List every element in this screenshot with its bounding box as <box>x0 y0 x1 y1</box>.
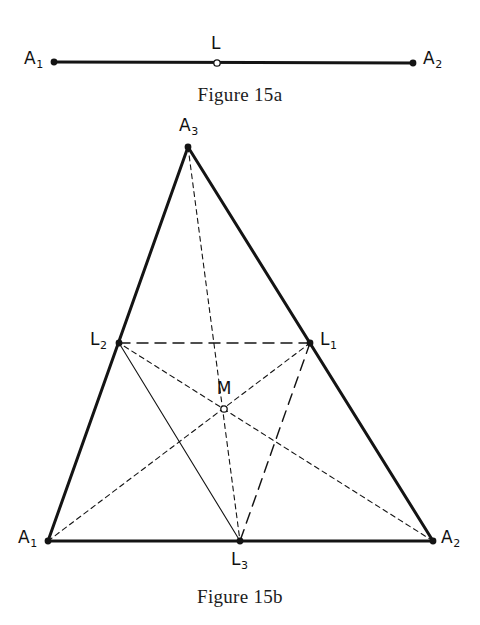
point-marker-A1-fig-a <box>51 59 58 66</box>
point-label-L1: L1 <box>320 331 336 348</box>
figure-caption-a: Figure 15a <box>0 84 480 106</box>
point-marker-A1 <box>45 538 52 545</box>
point-marker-L3 <box>237 538 244 545</box>
segment-median-A2-L2 <box>119 343 433 541</box>
point-marker-A2-fig-a <box>410 60 417 67</box>
point-marker-A2 <box>430 538 437 545</box>
point-label-M: M <box>217 380 232 397</box>
point-label-A2: A2 <box>441 529 460 546</box>
point-label-L-fig-a: L <box>211 35 220 52</box>
point-marker-A3 <box>185 144 192 151</box>
point-marker-L2 <box>116 340 123 347</box>
segments-layer <box>48 62 433 541</box>
segment-A1-A2 <box>54 62 413 63</box>
point-marker-L-fig-a <box>214 60 220 66</box>
point-marker-M <box>221 406 227 412</box>
point-marker-L1 <box>307 340 314 347</box>
point-label-A3: A3 <box>179 117 198 134</box>
segment-midline-L1-L3 <box>240 343 310 541</box>
point-label-A1-fig-a: A1 <box>24 50 43 67</box>
segment-median-A3-L3 <box>188 147 240 541</box>
figure-root: A1 L A2 A3 L2 L1 M A1 L3 A2 Figure 15a F… <box>0 0 480 625</box>
point-label-L3: L3 <box>231 551 247 568</box>
segment-median-A1-L1 <box>48 343 310 541</box>
point-label-A2-fig-a: A2 <box>423 50 442 67</box>
point-label-L2: L2 <box>90 331 106 348</box>
figure-caption-b: Figure 15b <box>0 586 480 608</box>
markers-layer <box>45 59 437 545</box>
point-label-A1: A1 <box>18 529 37 546</box>
